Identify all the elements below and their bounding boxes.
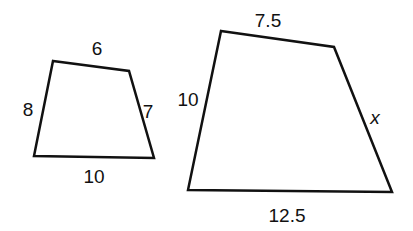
large-top-label: 7.5 (255, 10, 281, 31)
small-right-label: 7 (143, 101, 154, 122)
small-quadrilateral (34, 61, 154, 158)
similar-quadrilaterals-diagram: 6 7 10 8 7.5 x 12.5 10 (0, 0, 413, 231)
large-left-label: 10 (177, 89, 198, 110)
large-quadrilateral (188, 31, 392, 192)
large-right-label-x: x (369, 107, 381, 128)
large-bottom-label: 12.5 (269, 205, 306, 226)
small-top-label: 6 (92, 38, 103, 59)
small-left-label: 8 (23, 99, 34, 120)
small-bottom-label: 10 (83, 166, 104, 187)
